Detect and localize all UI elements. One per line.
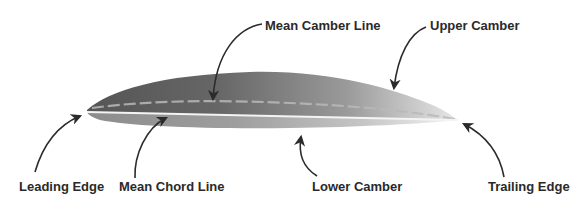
label-mean-chord-line: Mean Chord Line [119, 180, 224, 193]
arrow-leading-edge [35, 116, 80, 172]
label-trailing-edge: Trailing Edge [488, 180, 570, 193]
label-upper-camber: Upper Camber [430, 19, 520, 32]
arrow-upper-camber [394, 27, 426, 88]
arrow-lower-camber [300, 137, 317, 176]
arrow-trailing-edge [464, 124, 504, 177]
label-mean-camber-line: Mean Camber Line [265, 19, 381, 32]
label-leading-edge: Leading Edge [19, 180, 104, 193]
arrow-mean-chord-line [135, 118, 166, 178]
label-lower-camber: Lower Camber [312, 180, 402, 193]
airfoil-diagram: Mean Camber Line Upper Camber Leading Ed… [0, 0, 575, 209]
